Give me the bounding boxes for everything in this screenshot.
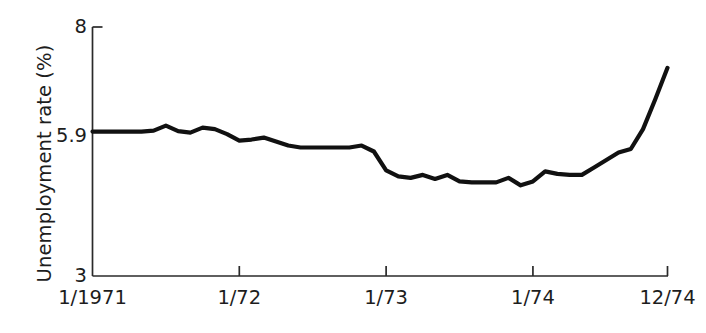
unemployment-rate-line <box>93 68 668 186</box>
chart-figure: Unemployment rate (%) 8 5.9 3 1/1971 1/7… <box>0 0 706 333</box>
plot-area <box>0 0 706 333</box>
y-tick-marks <box>93 27 103 132</box>
x-tick-marks <box>239 266 667 276</box>
